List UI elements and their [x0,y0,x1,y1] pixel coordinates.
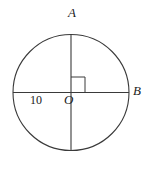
radius-measure-label: 10 [30,94,42,106]
point-label-a: A [68,6,76,19]
point-label-b: B [133,84,141,97]
geometry-figure: A B O 10 [0,0,157,171]
right-angle-marker-icon [71,77,85,93]
point-label-o: O [64,93,73,106]
